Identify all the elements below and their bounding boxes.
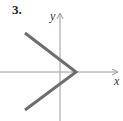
x-axis-label: x xyxy=(114,74,119,89)
graph xyxy=(0,0,123,121)
y-axis xyxy=(57,13,63,121)
x-axis xyxy=(0,69,118,75)
y-axis-label: y xyxy=(50,9,55,24)
